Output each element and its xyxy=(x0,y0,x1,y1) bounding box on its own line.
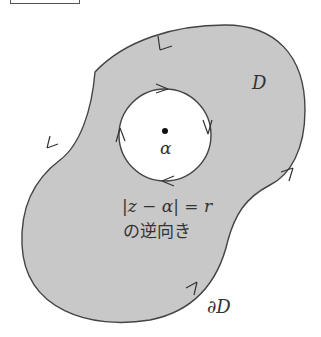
domain-diagram xyxy=(0,0,321,337)
boundary-label: ∂D xyxy=(207,296,231,317)
region-label: D xyxy=(252,72,266,93)
center-label: α xyxy=(160,138,171,158)
center-point xyxy=(162,128,168,134)
circle-equation: |z − α| = r xyxy=(122,196,212,216)
arrow-outer-left-icon xyxy=(47,136,58,148)
circle-orientation-note: の逆向き xyxy=(123,217,191,242)
inner-circle xyxy=(119,89,211,181)
